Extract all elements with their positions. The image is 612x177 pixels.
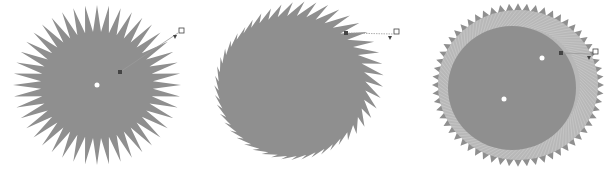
center-point[interactable] <box>95 83 100 88</box>
center-point[interactable] <box>502 97 507 102</box>
distort-start-handle[interactable] <box>118 70 122 74</box>
distort-end-handle[interactable] <box>179 28 184 33</box>
distort-end-handle[interactable] <box>593 49 598 54</box>
distort-start-handle[interactable] <box>344 31 348 35</box>
twister-gear-shape <box>408 0 612 177</box>
gear-inner-disc <box>448 26 576 150</box>
panel-zipper-distort <box>0 0 204 177</box>
arrow-icon <box>388 36 392 40</box>
arrow-icon <box>173 35 177 39</box>
panel-gear-twister-distort <box>408 0 612 177</box>
twister-star <box>214 2 383 161</box>
distort-start-handle[interactable] <box>559 51 563 55</box>
rotation-point[interactable] <box>540 56 545 61</box>
zipper-star-shape <box>0 0 204 177</box>
distort-end-handle[interactable] <box>394 29 399 34</box>
twister-star-shape <box>204 0 408 177</box>
panel-twister-distort <box>204 0 408 177</box>
